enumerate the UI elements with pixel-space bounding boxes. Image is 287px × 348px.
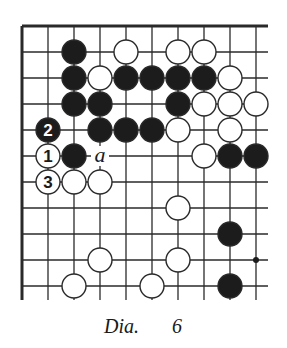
point-markers: a — [91, 142, 109, 167]
star-point-icon — [253, 257, 259, 263]
caption-number: 6 — [172, 315, 182, 338]
white-stone — [166, 118, 190, 142]
white-stone-1: 1 — [36, 144, 60, 168]
star-points — [253, 257, 259, 263]
black-stone — [166, 66, 190, 90]
black-stone — [62, 92, 86, 116]
white-stone — [192, 40, 216, 64]
go-board: a 213 — [0, 0, 287, 312]
svg-text:3: 3 — [43, 173, 52, 192]
black-stone — [88, 92, 112, 116]
white-stone — [140, 274, 164, 298]
black-stone — [62, 144, 86, 168]
white-stone — [218, 118, 242, 142]
white-stone — [192, 144, 216, 168]
black-stone — [218, 144, 242, 168]
white-stone — [192, 92, 216, 116]
black-stone — [244, 144, 268, 168]
black-stone — [62, 40, 86, 64]
point-marker-a: a — [95, 142, 106, 167]
svg-text:2: 2 — [43, 121, 52, 140]
diagram-caption: Dia. 6 — [0, 315, 287, 343]
black-stone — [192, 66, 216, 90]
white-stone — [114, 40, 138, 64]
white-stone — [88, 66, 112, 90]
black-stone — [114, 66, 138, 90]
black-stone — [114, 118, 138, 142]
black-stone — [166, 92, 190, 116]
black-stone — [88, 118, 112, 142]
white-stone — [88, 248, 112, 272]
black-stone — [62, 66, 86, 90]
black-stone — [218, 222, 242, 246]
black-stone — [140, 66, 164, 90]
white-stone — [62, 274, 86, 298]
caption-label: Dia. — [104, 315, 139, 338]
white-stone — [62, 170, 86, 194]
white-stone — [166, 248, 190, 272]
white-stone-3: 3 — [36, 170, 60, 194]
white-stone — [88, 170, 112, 194]
white-stone — [218, 66, 242, 90]
black-stone — [140, 118, 164, 142]
white-stone — [166, 196, 190, 220]
white-stone — [218, 92, 242, 116]
white-stone — [166, 40, 190, 64]
black-stone-2: 2 — [36, 118, 60, 142]
black-stone — [218, 274, 242, 298]
white-stone — [244, 92, 268, 116]
svg-text:1: 1 — [43, 147, 52, 166]
